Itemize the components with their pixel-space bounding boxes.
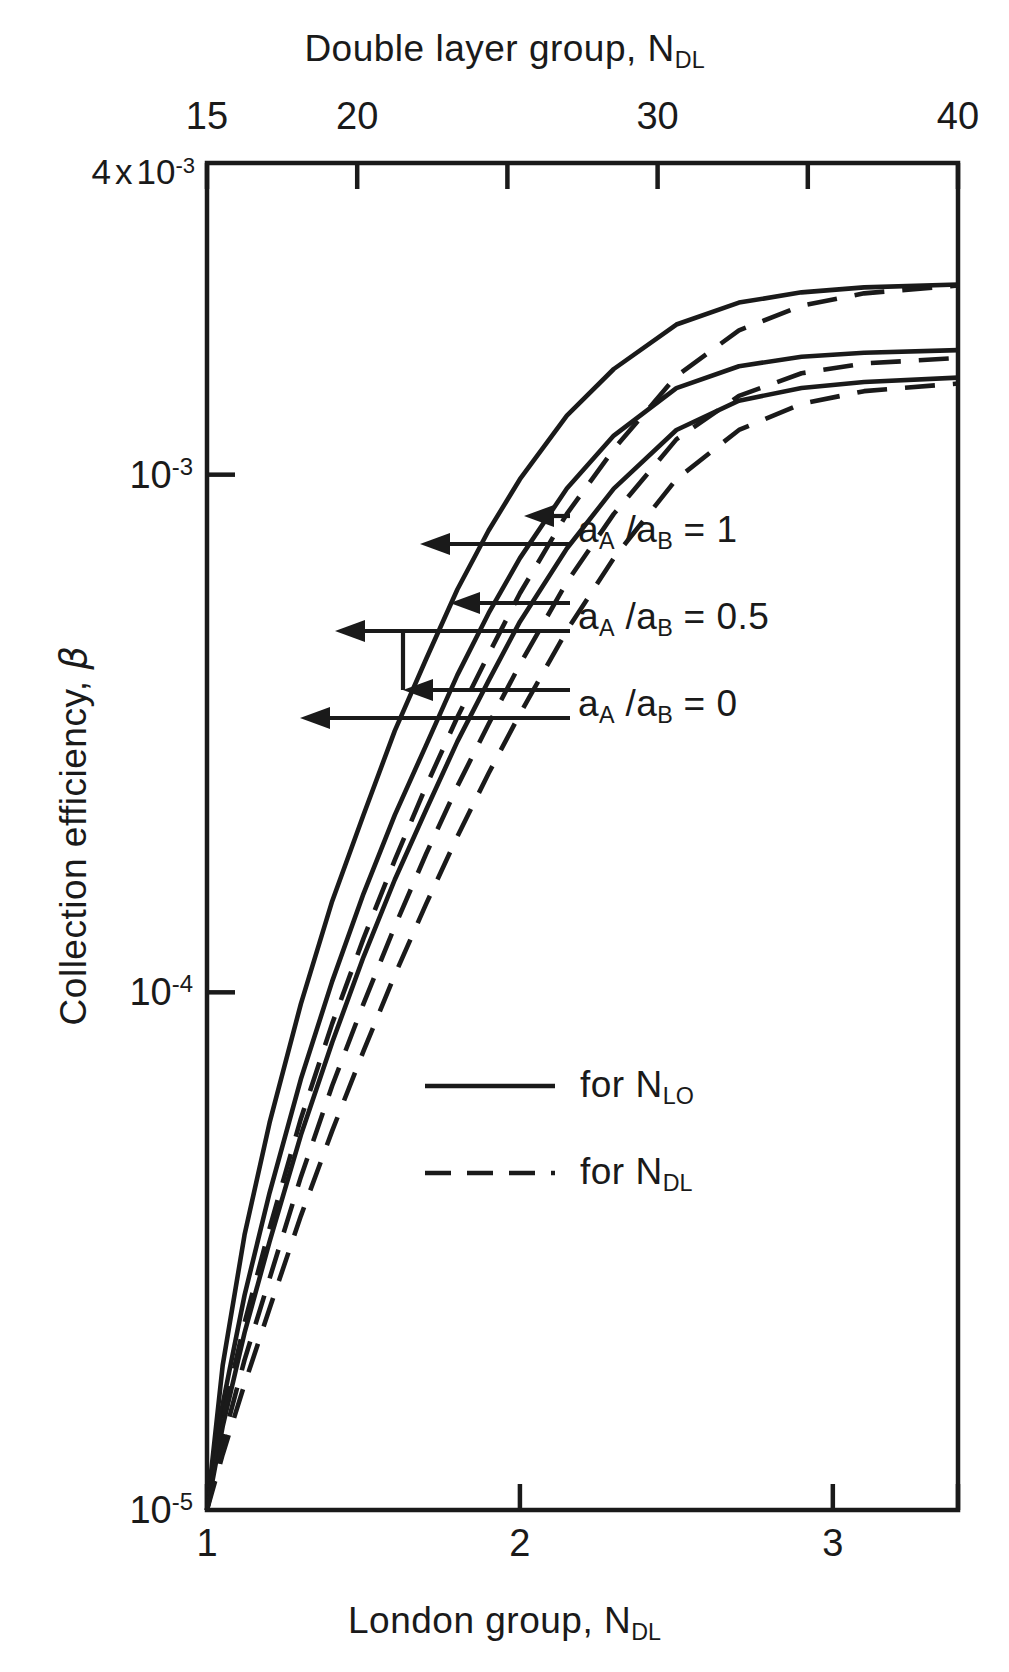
annot2-subB: B: [657, 702, 673, 728]
legend-lines-group: [425, 1086, 555, 1173]
annotation-arrow-head-2-0: [300, 707, 330, 729]
annot2-a: a: [578, 683, 599, 724]
curves-group: [207, 285, 958, 1511]
chart-figure: Double layer group, NDL London group, ND…: [0, 0, 1009, 1672]
annot2-subA: A: [599, 702, 615, 728]
annot2-eq: = 0: [673, 683, 738, 724]
legend1-subscript: DL: [663, 1170, 693, 1196]
annot2-slash: /a: [615, 683, 658, 724]
annot1-slash: /a: [615, 596, 658, 637]
legend0-subscript: LO: [663, 1083, 694, 1109]
annot0-subB: B: [657, 528, 673, 554]
legend0-text: for N: [580, 1064, 663, 1105]
annot0-a: a: [578, 509, 599, 550]
annot1-eq: = 0.5: [673, 596, 770, 637]
legend-label-dashed: for NDL: [580, 1151, 692, 1197]
annot1-subB: B: [657, 615, 673, 641]
plot-svg: [0, 0, 1009, 1672]
annotation-arrow-head-0-1: [524, 505, 554, 527]
annotation-label-ratio-0: aA /aB = 0: [578, 683, 738, 729]
annotation-arrow-head-1-0: [335, 620, 365, 642]
annotation-label-ratio-1: aA /aB = 1: [578, 509, 738, 555]
annot0-slash: /a: [615, 509, 658, 550]
annot0-eq: = 1: [673, 509, 738, 550]
annot0-subA: A: [599, 528, 615, 554]
annot1-a: a: [578, 596, 599, 637]
legend1-text: for N: [580, 1151, 663, 1192]
legend-label-solid: for NLO: [580, 1064, 694, 1110]
annot1-subA: A: [599, 615, 615, 641]
annotation-label-ratio-05: aA /aB = 0.5: [578, 596, 769, 642]
annotation-arrow-head-0-0: [420, 533, 450, 555]
